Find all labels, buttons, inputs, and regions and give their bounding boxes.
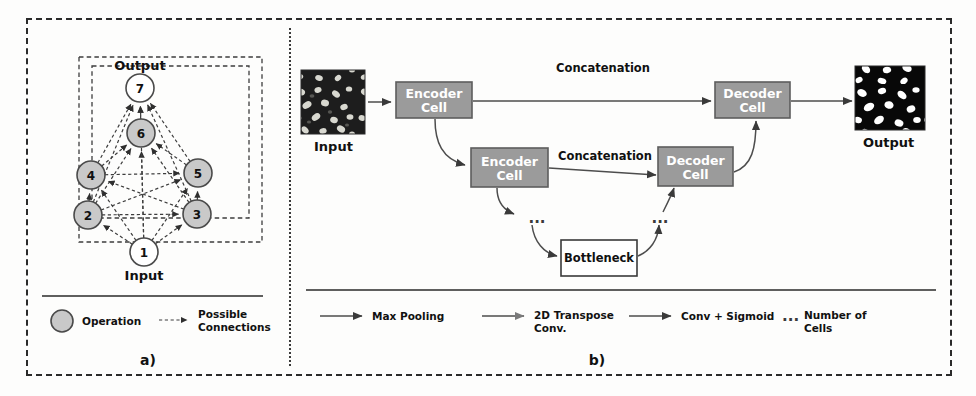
legend-max-pooling-label: Max Pooling <box>372 310 444 322</box>
legend-operation-icon <box>51 310 73 332</box>
graph-node-4[interactable]: 4 <box>77 161 105 189</box>
encoder-cell-1[interactable]: EncoderCell <box>396 82 472 118</box>
decoder-cell-1-label-line1: Decoder <box>723 86 782 101</box>
panel-b-boxes: EncoderCellEncoderCellDecoderCellDecoder… <box>396 82 790 276</box>
legend-number-of-cells-icon: ... <box>782 307 799 325</box>
arrow-encoder1-to-encoder2 <box>435 119 465 165</box>
legend-possible-connections-label-line1: Possible <box>198 308 247 320</box>
arrow-encoder2-to-ellipsis <box>497 188 514 214</box>
graph-edge-5-6 <box>156 144 186 165</box>
concatenation-top-label: Concatenation <box>556 61 650 75</box>
ellipsis-decoder: ... <box>651 209 668 227</box>
bottleneck-label-line1: Bottleneck <box>564 251 634 265</box>
figure-root: 1234567 Output Input Operation Possible … <box>0 0 976 396</box>
graph-node-7[interactable]: 7 <box>126 74 154 102</box>
legend-operation-label: Operation <box>82 315 141 327</box>
graph-node-5[interactable]: 5 <box>184 159 212 187</box>
output-image <box>855 66 925 130</box>
graph-edge-3-4 <box>108 181 183 209</box>
graph-edge-2-4 <box>89 193 90 201</box>
panel-a-cell-search-space: 1234567 Output Input Operation Possible … <box>30 20 288 376</box>
graph-node-label-7: 7 <box>136 82 144 96</box>
decoder-cell-1[interactable]: DecoderCell <box>715 82 790 118</box>
graph-node-3[interactable]: 3 <box>183 200 211 228</box>
panel-b-output-label: Output <box>863 135 914 150</box>
graph-nodes: 1234567 <box>74 74 212 266</box>
panel-divider <box>289 28 291 366</box>
encoder-cell-2-label-line2: Cell <box>496 168 522 183</box>
graph-node-label-5: 5 <box>194 167 202 181</box>
graph-edge-2-3 <box>102 214 179 215</box>
panel-a-svg: 1234567 Output Input Operation Possible … <box>30 20 288 376</box>
graph-edge-1-3 <box>155 225 182 244</box>
graph-edge-5-7 <box>150 103 190 161</box>
panel-a-caption: a) <box>140 352 156 368</box>
legend-conv-sigmoid-label: Conv + Sigmoid <box>681 310 774 322</box>
decoder-cell-2-label-line2: Cell <box>682 167 708 182</box>
graph-node-label-4: 4 <box>87 169 95 183</box>
arrow-bottleneck-to-ellipsis <box>638 225 659 256</box>
graph-node-label-6: 6 <box>137 127 145 141</box>
graph-node-label-3: 3 <box>193 208 201 222</box>
panel-b-caption: b) <box>589 352 605 368</box>
encoder-cell-2[interactable]: EncoderCell <box>471 148 548 187</box>
panel-b-unet-architecture: Input Output <box>292 20 950 376</box>
decoder-cell-2[interactable]: DecoderCell <box>658 147 733 186</box>
graph-node-1[interactable]: 1 <box>130 238 158 266</box>
panel-a-output-label: Output <box>114 58 165 73</box>
legend-transpose-conv-label-line1: 2D Transpose <box>534 309 614 321</box>
graph-node-2[interactable]: 2 <box>74 201 102 229</box>
graph-edge-1-4 <box>101 190 136 240</box>
legend-number-of-cells-label-line2: Cells <box>804 322 832 334</box>
encoder-cell-2-label-line1: Encoder <box>481 154 539 169</box>
legend-number-of-cells-label-line1: Number of <box>804 309 867 321</box>
panel-b-svg: Input Output <box>292 20 950 376</box>
graph-node-6[interactable]: 6 <box>127 119 155 147</box>
decoder-cell-1-label-line2: Cell <box>739 100 765 115</box>
input-image <box>301 70 365 134</box>
decoder-cell-2-label-line1: Decoder <box>666 153 725 168</box>
graph-edge-2-5 <box>101 180 181 210</box>
legend-possible-connections-label-line2: Connections <box>198 321 271 333</box>
ellipsis-encoder: ... <box>528 209 545 227</box>
graph-edge-4-7 <box>98 104 131 163</box>
arrow-decoder2-to-decoder1 <box>734 121 756 172</box>
concatenation-middle-label: Concatenation <box>558 149 652 163</box>
encoder-cell-1-label-line2: Cell <box>421 100 447 115</box>
legend-transpose-conv-label-line2: Conv. <box>534 322 566 334</box>
encoder-cell-1-label-line1: Encoder <box>405 86 463 101</box>
graph-node-label-2: 2 <box>84 209 92 223</box>
panel-b-input-label: Input <box>314 139 353 154</box>
bottleneck[interactable]: Bottleneck <box>561 240 637 276</box>
panel-a-input-label: Input <box>125 268 164 283</box>
arrow-concat-middle <box>549 168 656 175</box>
arrow-ellipsis-to-bottleneck <box>532 225 557 256</box>
grouping-box-inner <box>92 66 249 218</box>
graph-node-label-1: 1 <box>140 246 148 260</box>
graph-edge-4-6 <box>102 145 127 166</box>
